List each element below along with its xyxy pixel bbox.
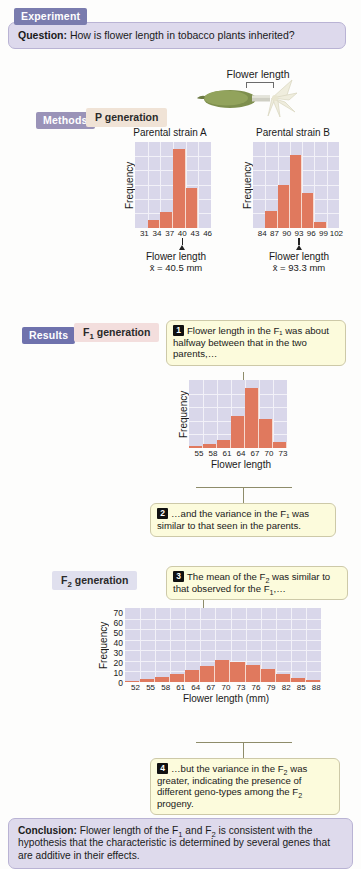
x-tick-label: 84	[256, 229, 268, 238]
bar	[314, 222, 326, 228]
y-tick-label: 0	[109, 678, 123, 688]
chart-a-mean: x̄ = 40.5 mm	[138, 262, 214, 273]
x-tick-label: 70	[218, 683, 233, 692]
x-tick-label: 102	[330, 229, 342, 238]
x-tick-label: 67	[248, 449, 262, 458]
x-tick-label: 55	[143, 683, 158, 692]
y-tick-label: 10	[109, 668, 123, 678]
x-tick-label: 67	[203, 683, 218, 692]
question-label: Question:	[18, 29, 67, 41]
p-generation-label: P generation	[86, 108, 167, 127]
x-tick-label: 99	[317, 229, 329, 238]
x-tick-label: 82	[279, 683, 294, 692]
bar	[230, 662, 245, 682]
chart-b-plot	[253, 142, 339, 228]
chart-b-mean-arrow	[296, 245, 302, 250]
callout-2: 2…and the variance in the F₁ was similar…	[150, 503, 336, 537]
bar	[215, 660, 230, 682]
x-tick-label: 37	[163, 229, 176, 238]
chart-a-title: Parental strain A	[122, 127, 218, 139]
bar	[291, 678, 306, 682]
chart-f2-xlabel: Flower length (mm)	[128, 693, 324, 704]
x-tick-label: 34	[151, 229, 164, 238]
x-tick-label: 52	[128, 683, 143, 692]
y-tick-label: 40	[109, 638, 123, 648]
bar	[231, 416, 245, 448]
x-tick-label: 55	[192, 449, 206, 458]
callout-4-number: 4	[157, 763, 168, 774]
bar	[278, 185, 290, 228]
chart-b-xlabel: Flower length	[256, 251, 342, 262]
chart-b-xticks: 848790939699102	[256, 229, 342, 238]
bar	[170, 674, 185, 682]
chart-f1-xlabel: Flower length	[192, 459, 290, 470]
chart-b-title: Parental strain B	[240, 127, 346, 139]
chart-b-mean: x̄ = 93.3 mm	[256, 262, 342, 273]
callout-4-text: …but the variance in the F2 was greater,…	[157, 763, 307, 809]
chart-a-mean-arrow-stem	[182, 238, 183, 245]
callout-1: 1Flower length in the F₁ was about halfw…	[166, 320, 346, 366]
bar	[265, 211, 277, 228]
f2-generation-label-wrap: F2 generation	[52, 570, 137, 590]
x-tick-label: 93	[293, 229, 305, 238]
chart-parental-strain-a: Parental strain A Frequency 313437404346…	[122, 127, 218, 273]
f1-generation-label: F1 generation	[74, 323, 159, 342]
bar	[217, 440, 231, 449]
bar	[189, 446, 203, 448]
x-tick-label: 64	[234, 449, 248, 458]
chart-b-plot-bars	[253, 142, 339, 228]
x-tick-label: 79	[264, 683, 279, 692]
x-tick-label: 85	[294, 683, 309, 692]
x-tick-label: 40	[176, 229, 189, 238]
chart-a-plot-bars	[135, 142, 211, 228]
bar	[140, 679, 155, 682]
bar	[125, 681, 140, 682]
bar	[276, 674, 291, 682]
chart-f2-plot-bars	[125, 608, 321, 682]
x-tick-label: 58	[158, 683, 173, 692]
y-tick-label: 50	[109, 628, 123, 638]
conclusion-box: Conclusion: Flower length of the F1 and …	[8, 818, 353, 869]
x-tick-label: 88	[309, 683, 324, 692]
callout-3: 3The mean of the F2 was similar to that …	[166, 566, 348, 600]
x-tick-label: 70	[262, 449, 276, 458]
callout-2-text: …and the variance in the F₁ was similar …	[157, 508, 309, 531]
callout-1-text: Flower length in the F₁ was about halfwa…	[173, 325, 329, 359]
x-tick-label: 96	[305, 229, 317, 238]
bar	[245, 388, 259, 448]
bar	[155, 677, 170, 682]
bar	[203, 444, 217, 448]
bar	[259, 419, 273, 448]
conclusion-label: Conclusion:	[18, 825, 77, 836]
callout-2-number: 2	[157, 508, 168, 519]
x-tick-label: 87	[268, 229, 280, 238]
callout-4: 4…but the variance in the F2 was greater…	[150, 758, 340, 815]
x-tick-label: 61	[220, 449, 234, 458]
chart-f2-xticks: 52555861646770737679828588	[128, 683, 324, 692]
bar	[186, 188, 199, 227]
chart-b-mean-arrow-stem	[298, 238, 299, 245]
f2-generation-label: F2 generation	[52, 571, 137, 590]
chart-a-plot	[135, 142, 211, 228]
chart-f1-xticks: 55586164677073	[192, 449, 290, 458]
experiment-tag-wrap: Experiment	[14, 6, 87, 25]
chart-a-xlabel: Flower length	[138, 251, 214, 262]
bar	[306, 680, 321, 682]
chart-b-ylabel: Frequency	[240, 142, 253, 228]
chart-f2-generation: Frequency 706050403020100 52555861646770…	[96, 608, 336, 704]
chart-f1-ylabel: Frequency	[176, 380, 189, 448]
bar	[160, 212, 173, 228]
x-tick-label: 43	[189, 229, 202, 238]
x-tick-label: 73	[276, 449, 290, 458]
x-tick-label: 64	[188, 683, 203, 692]
bar	[173, 149, 186, 228]
question-banner: Question: How is flower length in tobacc…	[8, 22, 346, 49]
results-tag: Results	[22, 327, 75, 344]
callout-3-number: 3	[173, 571, 184, 582]
bar	[185, 670, 200, 682]
callout-1-number: 1	[173, 325, 184, 336]
bar	[200, 666, 215, 682]
chart-a-mean-arrow	[179, 245, 185, 250]
callout-4-leader-h	[196, 742, 292, 743]
